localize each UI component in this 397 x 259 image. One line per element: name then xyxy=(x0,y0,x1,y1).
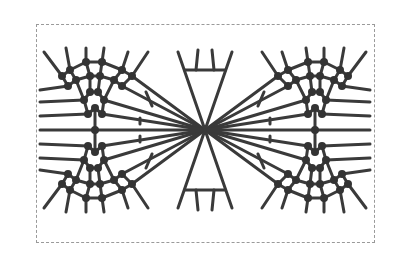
node xyxy=(311,126,319,134)
node xyxy=(94,164,102,172)
node xyxy=(308,88,316,96)
node xyxy=(284,170,292,178)
node xyxy=(64,170,72,178)
node xyxy=(80,96,88,104)
node xyxy=(336,66,344,74)
node xyxy=(320,194,328,202)
edge xyxy=(342,170,370,174)
node xyxy=(58,72,66,80)
node xyxy=(292,76,300,84)
edge xyxy=(132,184,148,208)
edge xyxy=(205,76,278,130)
edge xyxy=(44,52,62,76)
node xyxy=(304,110,312,118)
node xyxy=(91,104,99,112)
edge xyxy=(196,190,198,210)
node xyxy=(304,194,312,202)
node xyxy=(128,180,136,188)
edge xyxy=(326,158,370,160)
node xyxy=(98,58,106,66)
node xyxy=(86,164,94,172)
node xyxy=(308,164,316,172)
node xyxy=(98,194,106,202)
node xyxy=(316,88,324,96)
edge xyxy=(262,184,278,208)
node xyxy=(284,186,292,194)
edge xyxy=(44,184,62,208)
node xyxy=(318,142,326,150)
node xyxy=(82,58,90,66)
node xyxy=(82,194,90,202)
node xyxy=(118,82,126,90)
node xyxy=(110,176,118,184)
edge xyxy=(196,50,198,70)
node xyxy=(316,164,324,172)
node xyxy=(84,142,92,150)
node xyxy=(330,76,338,84)
edge xyxy=(322,144,370,146)
edge xyxy=(40,114,88,116)
node xyxy=(118,170,126,178)
edge xyxy=(348,52,366,76)
node xyxy=(118,66,126,74)
node xyxy=(72,76,80,84)
node xyxy=(322,96,330,104)
node xyxy=(306,72,314,80)
node xyxy=(80,156,88,164)
node xyxy=(320,58,328,66)
node xyxy=(96,72,104,80)
node xyxy=(344,72,352,80)
node xyxy=(311,148,319,156)
node xyxy=(100,96,108,104)
node xyxy=(336,186,344,194)
node xyxy=(322,156,330,164)
edge xyxy=(326,100,370,102)
node xyxy=(311,104,319,112)
node xyxy=(338,170,346,178)
node xyxy=(304,58,312,66)
node xyxy=(302,96,310,104)
node xyxy=(304,142,312,150)
node xyxy=(84,110,92,118)
node xyxy=(98,110,106,118)
edge xyxy=(132,76,205,130)
edge xyxy=(205,130,278,184)
node xyxy=(306,180,314,188)
edge xyxy=(212,190,214,210)
node xyxy=(344,180,352,188)
edge xyxy=(40,100,84,102)
node xyxy=(86,72,94,80)
node xyxy=(284,82,292,90)
node xyxy=(66,66,74,74)
node xyxy=(302,156,310,164)
node xyxy=(316,72,324,80)
node xyxy=(118,186,126,194)
node xyxy=(338,82,346,90)
node xyxy=(58,180,66,188)
node xyxy=(100,156,108,164)
node xyxy=(66,186,74,194)
node xyxy=(94,88,102,96)
node xyxy=(316,180,324,188)
node xyxy=(86,88,94,96)
node xyxy=(330,176,338,184)
edge xyxy=(132,130,205,184)
node xyxy=(274,72,282,80)
node xyxy=(318,110,326,118)
node xyxy=(64,82,72,90)
node xyxy=(86,180,94,188)
node xyxy=(98,142,106,150)
node xyxy=(91,148,99,156)
edge xyxy=(40,170,68,174)
node xyxy=(128,72,136,80)
edge xyxy=(212,50,214,70)
node xyxy=(96,180,104,188)
edge xyxy=(40,86,68,90)
node xyxy=(292,176,300,184)
node xyxy=(72,176,80,184)
edge xyxy=(322,114,370,116)
edge xyxy=(262,52,278,76)
node xyxy=(284,66,292,74)
node xyxy=(110,76,118,84)
node xyxy=(91,126,99,134)
